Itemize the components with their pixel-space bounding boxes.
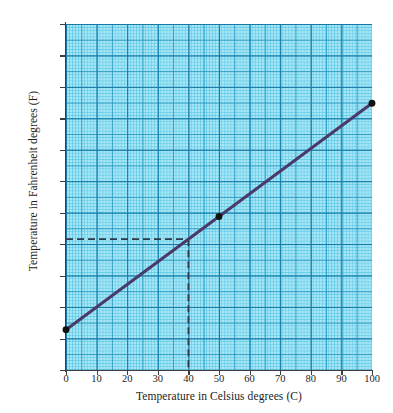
data-point-marker [369, 100, 376, 107]
x-tick-mark [97, 370, 98, 375]
x-tick-label: 100 [352, 374, 392, 385]
x-tick-mark [341, 370, 342, 375]
data-point-marker [63, 326, 70, 333]
y-axis-title: Temperature in Fahrenheit degrees (F) [27, 56, 39, 306]
x-tick-mark [250, 370, 251, 375]
x-tick-mark [280, 370, 281, 375]
data-svg [66, 24, 372, 370]
x-axis-title: Temperature in Celsius degrees (C) [66, 390, 372, 402]
data-overlay [66, 24, 372, 370]
data-point-marker [216, 213, 223, 220]
x-tick-mark [372, 370, 373, 375]
x-tick-mark [188, 370, 189, 375]
x-tick-mark [219, 370, 220, 375]
x-tick-mark [127, 370, 128, 375]
chart-figure: Temperature in Fahrenheit degrees (F) 02… [0, 0, 393, 413]
x-tick-mark [158, 370, 159, 375]
x-tick-mark [311, 370, 312, 375]
x-tick-mark [66, 370, 67, 375]
